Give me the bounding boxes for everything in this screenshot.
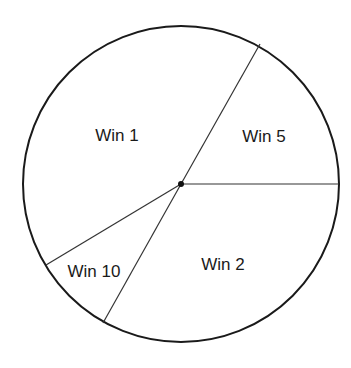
center-dot xyxy=(178,181,184,187)
region-label-win-10: Win 10 xyxy=(68,262,121,281)
region-label-win-1: Win 1 xyxy=(95,126,138,145)
divider-lower-left xyxy=(103,184,181,323)
divider-left xyxy=(46,184,181,265)
region-label-win-5: Win 5 xyxy=(242,127,285,146)
region-label-win-2: Win 2 xyxy=(201,255,244,274)
divider-upper-right xyxy=(181,44,260,184)
window-wheel-diagram: Win 1 Win 5 Win 2 Win 10 xyxy=(0,0,351,368)
